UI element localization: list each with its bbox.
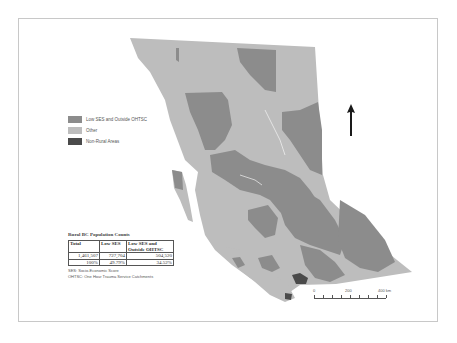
table-row: 100% 49.79% 34.52%	[69, 259, 174, 266]
scale-bar: 0 200 400 km	[312, 288, 388, 302]
table-notes: SES: Socio-Economic Score OHTSC: One Hou…	[68, 268, 174, 280]
legend-label: Other	[86, 128, 97, 133]
legend-swatch-icon	[68, 127, 82, 134]
cell: 34.52%	[127, 259, 174, 266]
legend-swatch-icon	[68, 116, 82, 123]
legend-item-low-ses: Low SES and Outside OHTSC	[68, 114, 147, 125]
cell: 49.79%	[100, 259, 127, 266]
scale-label-400: 400 km	[378, 288, 391, 293]
cell: 100%	[69, 259, 100, 266]
table-header-row: Total Low SES Low SES and Outside OHTSC	[69, 241, 174, 253]
header-low-ses-outside: Low SES and Outside OHTSC	[127, 241, 174, 253]
table-title: Rural BC Population Counts	[68, 232, 174, 237]
header-total: Total	[69, 241, 100, 253]
legend-item-other: Other	[68, 125, 147, 136]
header-low-ses: Low SES	[100, 241, 127, 253]
legend-label: Non-Rural Areas	[86, 139, 119, 144]
population-table: Total Low SES Low SES and Outside OHTSC …	[68, 240, 174, 266]
non-rural-victoria	[285, 293, 292, 300]
table-row: 1,461,507 727,704 504,520	[69, 253, 174, 260]
scale-label-0: 0	[313, 288, 315, 293]
scale-label-200: 200	[345, 288, 352, 293]
population-table-block: Rural BC Population Counts Total Low SES…	[68, 232, 174, 280]
note-ohtsc: OHTSC: One Hour Trauma Service Catchment…	[68, 274, 174, 280]
legend-item-non-rural: Non-Rural Areas	[68, 136, 147, 147]
scale-line	[314, 298, 386, 299]
legend-swatch-icon	[68, 138, 82, 145]
legend-label: Low SES and Outside OHTSC	[86, 117, 147, 122]
north-arrow-icon	[347, 104, 355, 140]
legend: Low SES and Outside OHTSC Other Non-Rura…	[68, 114, 147, 147]
